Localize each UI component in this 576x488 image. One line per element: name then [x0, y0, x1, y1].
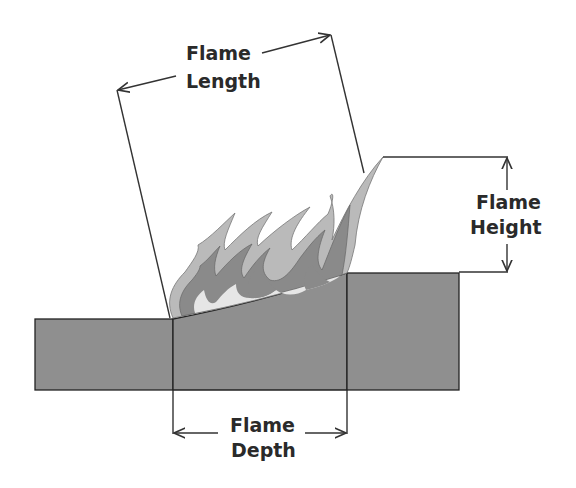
flame-height-label-line2: Height [470, 216, 542, 238]
flame-depth-dimension: Flame Depth [173, 390, 347, 461]
flame-height-dimension: Flame Height [383, 157, 542, 272]
flame-depth-label-line1: Flame [230, 414, 295, 436]
flame-length-extension-right [331, 35, 364, 173]
ground-right [347, 273, 459, 390]
flame-height-label-line1: Flame [476, 191, 541, 213]
ground-left [35, 319, 173, 390]
flame-length-label-line2: Length [186, 70, 261, 92]
flame-length-label-line1: Flame [186, 42, 251, 64]
flame-dimensions-diagram: Flame Length Flame Height Flame Depth [0, 0, 576, 488]
flame-length-arrow-left [118, 76, 176, 90]
flame-length-arrow-right [262, 35, 330, 53]
flame-length-extension-left [117, 90, 170, 318]
flame-depth-label-line2: Depth [231, 439, 296, 461]
